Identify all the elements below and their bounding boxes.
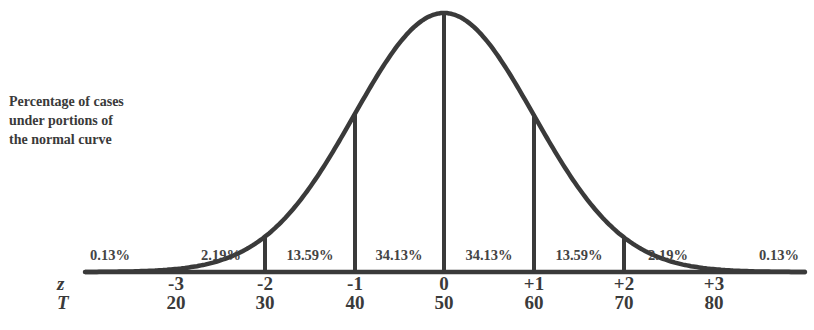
region-percent: 13.59% xyxy=(555,247,602,264)
z-tick: +1 xyxy=(524,274,544,294)
t-tick: 60 xyxy=(525,293,544,313)
t-tick: 30 xyxy=(256,293,275,313)
z-tick: -1 xyxy=(347,274,363,294)
z-tick: -3 xyxy=(168,274,184,294)
sd-dividers xyxy=(176,13,714,272)
region-percent: 0.13% xyxy=(90,247,130,264)
region-percent: 2.19% xyxy=(648,247,688,264)
t-tick: 20 xyxy=(167,293,186,313)
caption: Percentage of cases under portions of th… xyxy=(9,92,124,149)
region-percent: 2.19% xyxy=(201,247,241,264)
t-tick: 40 xyxy=(346,293,365,313)
caption-line: under portions of xyxy=(9,111,124,130)
t-tick: 70 xyxy=(615,293,634,313)
z-tick: -2 xyxy=(257,274,273,294)
z-axis-label: z xyxy=(57,274,64,294)
t-tick: 80 xyxy=(705,293,724,313)
region-percent: 13.59% xyxy=(286,247,333,264)
z-tick: +2 xyxy=(614,274,634,294)
z-tick: +3 xyxy=(704,274,724,294)
normal-curve-diagram xyxy=(0,0,814,330)
caption-line: the normal curve xyxy=(9,130,124,149)
region-percent: 34.13% xyxy=(465,247,512,264)
t-axis-label: T xyxy=(57,293,69,313)
caption-line: Percentage of cases xyxy=(9,92,124,111)
z-tick: 0 xyxy=(439,274,449,294)
region-percent: 0.13% xyxy=(759,247,799,264)
t-tick: 50 xyxy=(435,293,454,313)
region-percent: 34.13% xyxy=(375,247,422,264)
